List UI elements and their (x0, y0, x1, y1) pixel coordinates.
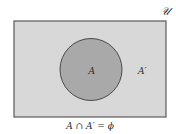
complement-label: A′ (137, 66, 147, 76)
universal-set-label: 𝒰 (160, 5, 173, 18)
set-a-label: A (88, 66, 96, 76)
venn-diagram: 𝒰 A A′ A ∩ A′ = ϕ (0, 0, 176, 134)
caption: A ∩ A′ = ϕ (65, 121, 114, 131)
